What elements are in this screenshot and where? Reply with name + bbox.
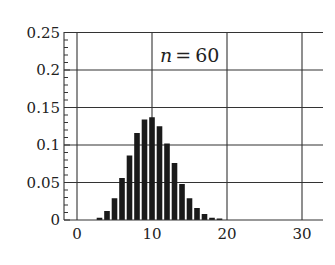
annotation-value: 60 bbox=[195, 44, 219, 66]
x-tick-label: 20 bbox=[217, 225, 236, 243]
bar bbox=[142, 120, 148, 221]
x-axis-ticks: 0102030 bbox=[72, 225, 311, 243]
y-tick-label: 0.25 bbox=[27, 24, 60, 42]
grid-lines bbox=[64, 33, 323, 221]
bars bbox=[97, 117, 223, 220]
bar bbox=[179, 184, 185, 220]
bar bbox=[157, 126, 163, 220]
bar bbox=[112, 198, 118, 220]
n-annotation: n=60 bbox=[160, 44, 219, 66]
y-tick-label: 0.15 bbox=[27, 99, 60, 117]
annotation-variable: n bbox=[160, 44, 172, 66]
x-tick-label: 30 bbox=[292, 225, 311, 243]
annotation-equals: = bbox=[175, 44, 191, 66]
bar bbox=[172, 163, 178, 220]
y-tick-label: 0.05 bbox=[27, 174, 60, 192]
bar bbox=[149, 117, 155, 220]
y-tick-label: 0.2 bbox=[36, 61, 60, 79]
binomial-bar-chart: 00.050.10.150.20.25 0102030 n=60 bbox=[0, 0, 335, 265]
bar bbox=[127, 156, 133, 221]
bar bbox=[119, 178, 125, 220]
x-tick-label: 0 bbox=[72, 225, 82, 243]
axes bbox=[64, 32, 323, 220]
y-tick-label: 0 bbox=[50, 211, 60, 229]
x-tick-label: 10 bbox=[142, 225, 161, 243]
bar bbox=[202, 214, 208, 220]
y-tick-label: 0.1 bbox=[36, 136, 60, 154]
bar bbox=[164, 144, 170, 221]
bar bbox=[194, 208, 200, 220]
bar bbox=[134, 133, 140, 220]
bar bbox=[104, 211, 110, 220]
bar bbox=[187, 198, 193, 220]
